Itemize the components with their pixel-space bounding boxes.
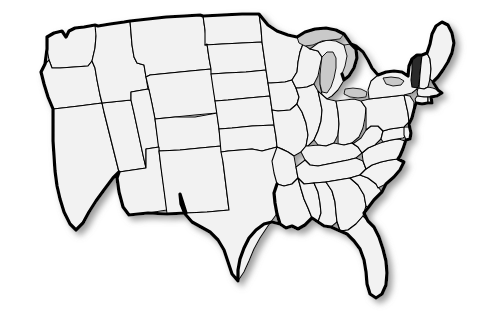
state-SD[interactable]	[205, 42, 266, 74]
map-body	[41, 14, 454, 298]
state-OK[interactable]	[219, 125, 277, 152]
us-map-container	[0, 0, 487, 317]
lake-erie	[344, 88, 367, 98]
state-ND[interactable]	[203, 14, 262, 45]
state-NM[interactable]	[159, 146, 229, 214]
state-WY[interactable]	[146, 69, 217, 119]
state-CO[interactable]	[155, 113, 221, 151]
state-PA[interactable]	[361, 95, 409, 131]
us-map-svg[interactable]	[0, 0, 487, 317]
state-KS[interactable]	[215, 96, 274, 129]
